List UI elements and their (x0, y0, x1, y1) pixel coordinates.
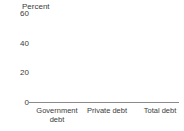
x-tick-label-line-1: Government (36, 106, 77, 115)
y-tick-label-60: 60 (0, 10, 29, 18)
x-tick-label-line-2: debt (30, 115, 84, 124)
plot-area: 0 20 40 60 Government debt Private debt (33, 14, 179, 103)
y-tick-label-20: 20 (0, 69, 29, 77)
bar-series: Government debt Private debt Total debt (33, 14, 179, 103)
bar-chart: Percent 0 20 40 60 Government debt Priva… (0, 0, 184, 131)
x-tick-label-total-debt: Total debt (133, 103, 184, 115)
y-tick-label-0: 0 (0, 99, 29, 107)
x-tick-label-government-debt: Government debt (30, 103, 84, 124)
x-tick-label-line-1: Total debt (144, 106, 177, 115)
x-tick-label-private-debt: Private debt (80, 103, 134, 115)
y-tick-label-40: 40 (0, 40, 29, 48)
x-tick-label-line-1: Private debt (87, 106, 127, 115)
